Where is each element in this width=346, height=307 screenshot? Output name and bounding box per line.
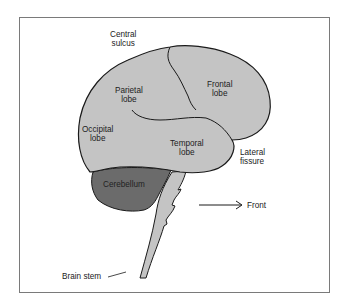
label-occipital-lobe: Occipital lobe [82,125,113,143]
label-brain-stem: Brain stem [62,272,101,281]
label-lateral-fissure: Lateral fissure [240,148,265,166]
label-central-sulcus: Central sulcus [110,30,136,48]
brain-stem-pointer [108,272,126,277]
label-frontal-lobe: Frontal lobe [207,80,232,98]
label-cerebellum: Cerebellum [103,180,145,189]
label-temporal-lobe: Temporal lobe [170,139,204,157]
label-parietal-lobe: Parietal lobe [115,86,143,104]
label-front: Front [247,201,266,210]
